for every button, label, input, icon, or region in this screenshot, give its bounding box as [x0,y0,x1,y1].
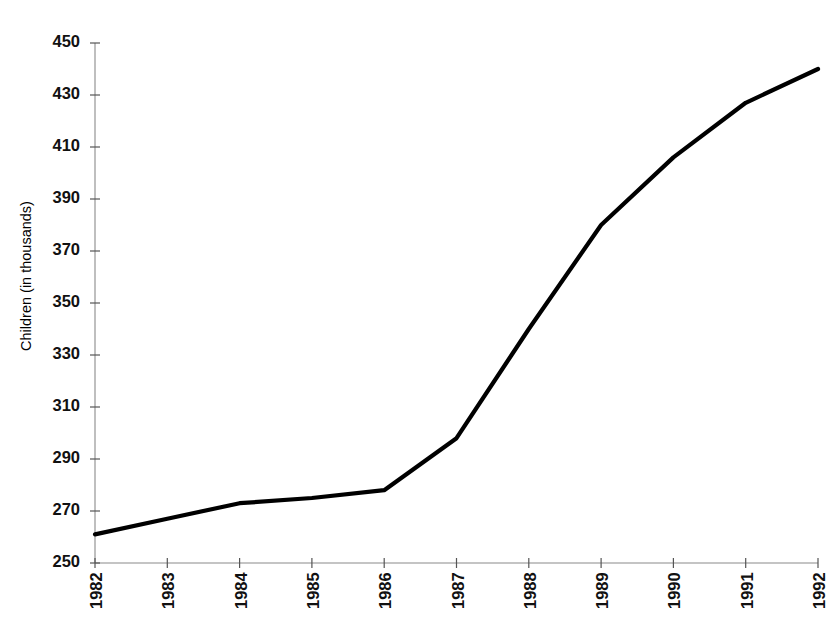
plot-area [0,0,840,633]
data-series-line [95,69,818,534]
line-chart-figure: Children (in thousands) 4504304103903703… [0,0,840,633]
